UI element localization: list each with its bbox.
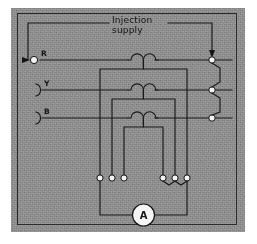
supply-wire-right [168, 23, 212, 53]
terminal-phase-b[interactable] [36, 112, 41, 124]
circuit-schematic: R Y B Injection supply [0, 0, 257, 244]
figure-root: R Y B Injection supply [0, 0, 257, 244]
terminal-phase-r[interactable] [30, 56, 37, 63]
terminal-bottom-left-1[interactable] [97, 175, 103, 181]
secondary-wire-y-left [112, 96, 143, 176]
terminal-bottom-right-2[interactable] [172, 175, 178, 181]
terminal-bottom-right-1[interactable] [160, 175, 166, 181]
injection-supply-label-line1: Injection [112, 15, 152, 25]
ammeter-wire-left [100, 181, 132, 215]
current-transformer-y [128, 84, 158, 96]
terminal-right-r[interactable] [209, 57, 215, 63]
secondary-wire-b-left [124, 124, 143, 176]
terminal-right-y[interactable] [209, 87, 215, 93]
label-phase-y: Y [43, 79, 50, 88]
terminal-right-b[interactable] [209, 115, 215, 121]
ammeter-wire-right [155, 181, 187, 215]
terminal-phase-y[interactable] [36, 84, 41, 96]
current-transformer-r [128, 54, 158, 66]
secondary-wire-b-right [143, 127, 163, 176]
label-phase-r: R [41, 49, 47, 58]
secondary-wire-r-left [100, 66, 143, 176]
phase-r-arrow-icon [22, 57, 30, 63]
right-link-r-y [212, 63, 220, 87]
shorting-link-1[interactable] [163, 181, 175, 185]
ammeter-label: A [140, 210, 148, 221]
label-phase-b: B [44, 107, 50, 116]
current-transformer-b [128, 112, 158, 124]
injection-supply-label-line2: supply [112, 25, 143, 35]
shorting-link-2[interactable] [175, 181, 187, 185]
terminal-bottom-left-2[interactable] [109, 175, 115, 181]
right-link-y-b [212, 93, 220, 115]
secondary-wire-y-right [143, 99, 175, 176]
terminal-bottom-left-3[interactable] [121, 175, 127, 181]
secondary-wire-r-right [143, 69, 187, 176]
terminal-bottom-right-3[interactable] [184, 175, 190, 181]
